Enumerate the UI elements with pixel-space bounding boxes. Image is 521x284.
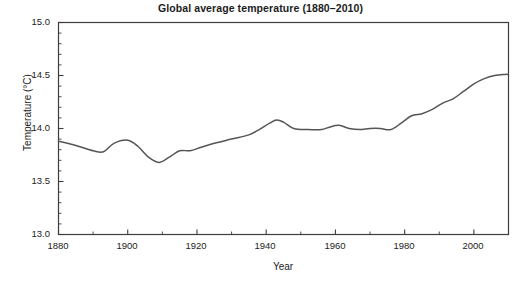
x-axis-label: Year	[58, 261, 508, 272]
chart-figure: Global average temperature (1880–2010) T…	[0, 0, 521, 284]
chart-title: Global average temperature (1880–2010)	[0, 2, 521, 14]
x-tick-label-1920: 1920	[166, 240, 226, 251]
y-tick-label-13-0: 13.0	[10, 228, 50, 239]
x-tick-label-1960: 1960	[305, 240, 365, 251]
x-tick-label-1880: 1880	[28, 240, 88, 251]
y-tick-label-14-0: 14.0	[10, 122, 50, 133]
y-tick-label-14-5: 14.5	[10, 69, 50, 80]
x-tick-label-2000: 2000	[443, 240, 503, 251]
x-tick-label-1940: 1940	[235, 240, 295, 251]
x-tick-label-1980: 1980	[374, 240, 434, 251]
x-tick-label-1900: 1900	[97, 240, 157, 251]
y-tick-label-13-5: 13.5	[10, 175, 50, 186]
y-tick-label-15-0: 15.0	[10, 16, 50, 27]
plot-frame	[59, 23, 509, 235]
y-axis-label: Temperature (°C)	[22, 43, 33, 183]
